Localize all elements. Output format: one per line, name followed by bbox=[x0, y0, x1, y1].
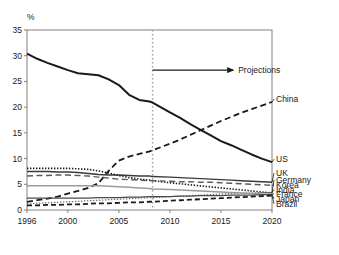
x-tick-label: 2000 bbox=[58, 216, 77, 226]
x-tick-label: 1996 bbox=[18, 216, 37, 226]
projections-label: Projections bbox=[238, 65, 280, 75]
y-axis-ticks: 05101520253035 bbox=[13, 25, 27, 215]
series-labels: USChinaUKGermanyKoreaIndiaFranceJapanBra… bbox=[276, 94, 312, 209]
series-line-france bbox=[27, 186, 272, 195]
chart-container: % 05101520253035 19962000200520102015202… bbox=[0, 0, 339, 255]
x-axis-ticks: 199620002005201020152020 bbox=[18, 210, 282, 226]
plot-frame bbox=[27, 30, 272, 210]
series-label-brazil: Brazil bbox=[276, 199, 297, 209]
x-tick-label: 2015 bbox=[211, 216, 230, 226]
y-axis-unit-label: % bbox=[27, 12, 35, 22]
series-line-china bbox=[27, 102, 272, 202]
x-tick-label: 2010 bbox=[160, 216, 179, 226]
projections-annotation: Projections bbox=[153, 65, 281, 75]
y-tick-label: 10 bbox=[13, 154, 23, 164]
y-tick-label: 20 bbox=[13, 102, 23, 112]
x-tick-label: 2020 bbox=[263, 216, 282, 226]
y-tick-label: 25 bbox=[13, 76, 23, 86]
y-tick-label: 0 bbox=[17, 205, 22, 215]
y-tick-label: 35 bbox=[13, 25, 23, 35]
x-tick-label: 2005 bbox=[109, 216, 128, 226]
y-tick-label: 5 bbox=[17, 179, 22, 189]
y-tick-label: 15 bbox=[13, 128, 23, 138]
line-chart: % 05101520253035 19962000200520102015202… bbox=[0, 0, 339, 255]
series-label-us: US bbox=[276, 154, 288, 164]
series-lines bbox=[27, 54, 272, 206]
series-label-china: China bbox=[276, 94, 298, 104]
y-tick-label: 30 bbox=[13, 51, 23, 61]
series-line-us bbox=[27, 54, 272, 163]
